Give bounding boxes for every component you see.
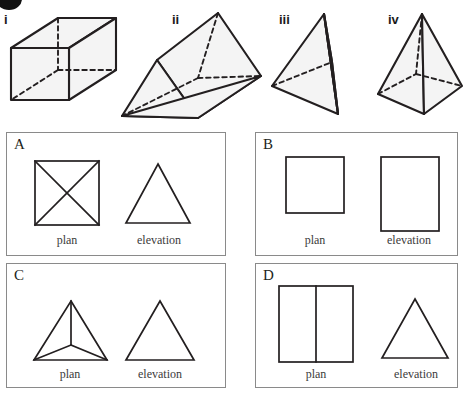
panel-d-elevation-shape: [378, 295, 454, 365]
panel-b: B plan elevation: [255, 132, 458, 256]
panel-c-elevation-shape: [122, 297, 200, 365]
panel-c-letter: C: [14, 268, 24, 283]
panel-a: A plan elevation: [6, 132, 226, 256]
panel-a-letter: A: [14, 137, 25, 152]
panel-c: C plan elevation: [6, 263, 226, 388]
panel-a-elevation-shape: [122, 160, 194, 230]
solid-square-pyramid: [372, 8, 466, 120]
panel-b-elevation-shape: [378, 154, 442, 234]
solid-cuboid: [6, 8, 122, 118]
panel-a-elevation-caption: elevation: [123, 234, 195, 246]
panel-c-plan-shape: [28, 297, 112, 365]
solid-triangular-prism: [110, 6, 262, 124]
panel-c-elevation-caption: elevation: [124, 368, 196, 380]
panel-a-plan-shape: [32, 158, 102, 230]
panel-b-plan-caption: plan: [285, 234, 345, 246]
figure-canvas: i ii: [0, 0, 466, 408]
panel-b-letter: B: [263, 137, 273, 152]
panel-d: D plan elevation: [255, 263, 458, 388]
panel-b-plan-shape: [283, 154, 347, 216]
panel-c-plan-caption: plan: [40, 368, 100, 380]
panel-d-plan-caption: plan: [286, 368, 346, 380]
panel-d-letter: D: [263, 268, 274, 283]
panel-a-plan-caption: plan: [37, 234, 97, 246]
solid-tetrahedron: [266, 8, 366, 120]
panel-d-plan-shape: [276, 283, 356, 365]
panel-b-elevation-caption: elevation: [373, 234, 445, 246]
panel-d-elevation-caption: elevation: [380, 368, 452, 380]
